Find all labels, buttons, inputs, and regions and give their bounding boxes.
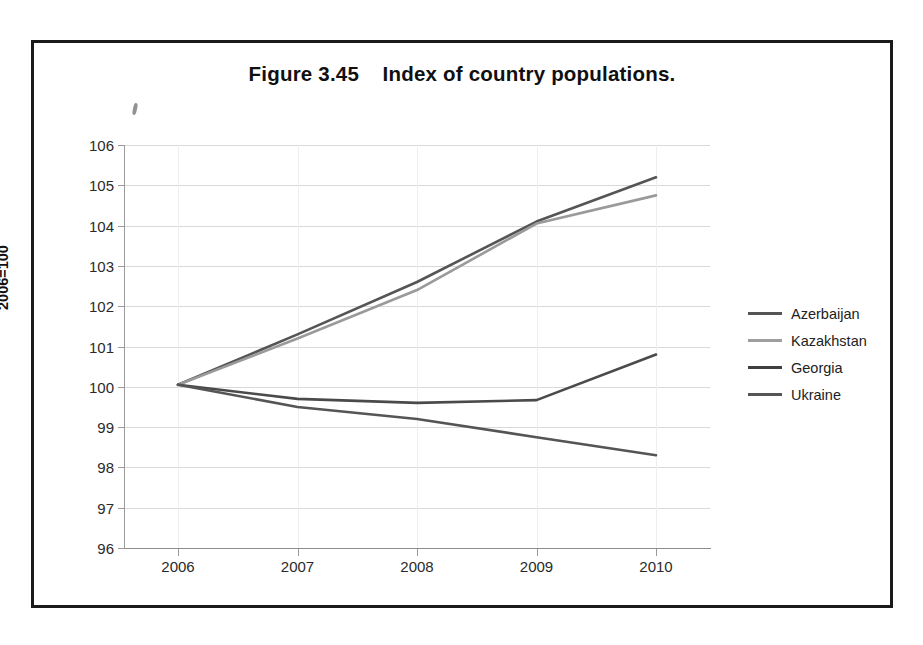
chart-title: Figure 3.45 Index of country populations… <box>31 62 893 86</box>
y-axis-tick <box>118 427 125 428</box>
y-axis-tick <box>118 306 125 307</box>
legend-line-swatch <box>748 393 782 396</box>
x-gridline <box>178 145 179 548</box>
plot-area <box>124 145 710 548</box>
legend-item-label: Ukraine <box>791 387 841 403</box>
y-axis-tick-label: 98 <box>68 459 114 476</box>
figure-page: Figure 3.45 Index of country populations… <box>0 0 923 645</box>
y-axis-tick <box>118 347 125 348</box>
y-axis-tick <box>118 508 125 509</box>
y-axis-tick-label: 104 <box>68 217 114 234</box>
y-axis-tick-label: 106 <box>68 137 114 154</box>
x-axis-tick-label: 2007 <box>253 558 343 575</box>
x-gridline <box>417 145 418 548</box>
x-axis-tick <box>537 549 538 556</box>
legend-item-label: Kazakhstan <box>791 333 867 349</box>
legend-line-swatch <box>748 339 782 342</box>
y-axis-tick-label: 101 <box>68 338 114 355</box>
y-axis-tick-label: 96 <box>68 540 114 557</box>
x-gridline <box>537 145 538 548</box>
legend-item-label: Azerbaijan <box>791 306 860 322</box>
y-axis-tick <box>118 467 125 468</box>
x-axis-tick-label: 2009 <box>492 558 582 575</box>
x-axis-tick <box>417 549 418 556</box>
x-axis-tick-label: 2008 <box>372 558 462 575</box>
legend-item[interactable]: Kazakhstan <box>748 327 878 354</box>
x-axis-tick <box>656 549 657 556</box>
y-axis-title: 2006=100 <box>0 245 11 310</box>
y-axis-tick <box>118 226 125 227</box>
y-axis-tick-label: 103 <box>68 257 114 274</box>
x-axis-tick <box>298 549 299 556</box>
y-axis-tick <box>118 145 125 146</box>
chart-legend: AzerbaijanKazakhstanGeorgiaUkraine <box>748 300 878 408</box>
y-axis-tick-label: 100 <box>68 378 114 395</box>
x-axis-tick-label: 2010 <box>611 558 701 575</box>
legend-item-label: Georgia <box>791 360 843 376</box>
y-axis-tick-label: 105 <box>68 177 114 194</box>
y-axis-tick-label: 102 <box>68 298 114 315</box>
x-axis-tick <box>178 549 179 556</box>
legend-item[interactable]: Azerbaijan <box>748 300 878 327</box>
y-axis-tick-label: 99 <box>68 419 114 436</box>
x-gridline <box>656 145 657 548</box>
y-axis-tick <box>118 185 125 186</box>
x-axis-tick-label: 2006 <box>133 558 223 575</box>
y-axis-tick-label: 97 <box>68 499 114 516</box>
x-gridline <box>298 145 299 548</box>
legend-line-swatch <box>748 312 782 315</box>
y-axis-tick-labels: 10610510410310210110099989796 <box>62 0 114 645</box>
y-axis-tick <box>118 266 125 267</box>
y-axis-tick <box>118 548 125 549</box>
legend-item[interactable]: Ukraine <box>748 381 878 408</box>
legend-line-swatch <box>748 366 782 369</box>
y-axis-tick <box>118 387 125 388</box>
legend-item[interactable]: Georgia <box>748 354 878 381</box>
